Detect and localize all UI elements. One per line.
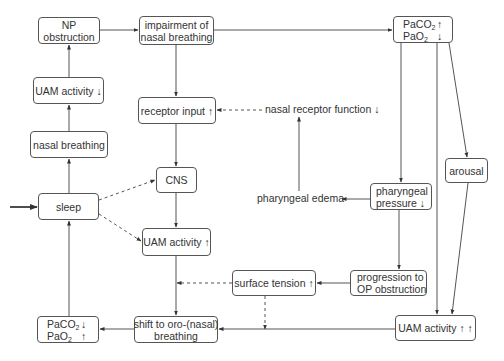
edge-sleep-uam-up (99, 214, 141, 241)
arrow-up-icon: ↑ (81, 330, 86, 342)
node-impairment-nasal-breathing: impairment of nasal breathing (139, 16, 214, 45)
gas-subscript: 2 (68, 336, 72, 343)
node-label: surface tension ↑ (234, 277, 313, 289)
gas-row-paco2: PaCO2 ↓ (47, 318, 86, 330)
node-label: shift to oro-(nasal) (134, 318, 219, 330)
node-label: OP obstruction (357, 283, 426, 295)
gas-label: PaCO (403, 18, 432, 30)
edge-gas-arousal (449, 43, 467, 157)
node-np-obstruction: NP obstruction (38, 17, 100, 44)
gas-label: PaO (403, 30, 424, 42)
node-surface-tension: surface tension ↑ (232, 270, 316, 296)
node-receptor-input: receptor input ↑ (138, 97, 216, 124)
node-label: obstruction (43, 31, 94, 43)
node-arousal: arousal (445, 158, 488, 183)
node-label: receptor input ↑ (141, 105, 213, 117)
node-label: UAM activity ↓ (35, 85, 102, 97)
node-label: NP (62, 19, 77, 31)
gas-label: PaO (47, 330, 68, 342)
node-pharyngeal-pressure: pharyngeal pressure ↓ (370, 183, 432, 210)
node-shift-oronasal-breathing: shift to oro-(nasal) breathing (134, 316, 218, 343)
node-uam-activity-down: UAM activity ↓ (33, 77, 104, 104)
gas-row-pao2: PaO2 ↑ (47, 330, 86, 342)
node-label: impairment of (145, 19, 209, 31)
node-label: UAM activity ↑ ↑ (398, 322, 473, 334)
edge-arousal-uam-upup (452, 183, 468, 314)
edge-sleep-cns (99, 180, 155, 200)
arrow-down-icon: ↓ (81, 318, 86, 330)
node-label: UAM activity ↑ (143, 236, 210, 248)
node-label: sleep (56, 201, 81, 213)
node-blood-gas-top: PaCO2 ↑ PaO2 ↓ (393, 16, 453, 43)
edges-layer (0, 0, 504, 361)
node-label: nasal breathing (141, 31, 213, 43)
gas-row-paco2: PaCO2 ↑ (403, 18, 442, 30)
gas-label: PaCO (47, 318, 76, 330)
node-nasal-breathing: nasal breathing (30, 131, 108, 158)
gas-subscript: 2 (424, 36, 428, 43)
node-blood-gas-bottom: PaCO2 ↓ PaO2 ↑ (37, 316, 99, 343)
node-label: pharyngeal (376, 185, 428, 197)
node-uam-activity-up: UAM activity ↑ (142, 228, 211, 256)
node-label: pressure ↓ (376, 197, 425, 209)
node-cns: CNS (156, 167, 197, 193)
node-label: arousal (449, 165, 483, 177)
label-nasal-receptor-function: nasal receptor function ↓ (265, 103, 379, 115)
node-label: breathing (154, 330, 198, 342)
label-pharyngeal-edema: pharyngeal edema (257, 192, 344, 204)
gas-row-pao2: PaO2 ↓ (403, 30, 442, 42)
node-label: CNS (165, 174, 187, 186)
node-sleep: sleep (38, 193, 99, 220)
node-uam-activity-upup: UAM activity ↑ ↑ (395, 315, 476, 341)
node-progression-op-obstruction: progression to OP obstruction (350, 270, 427, 296)
node-label: progression to (357, 271, 424, 283)
arrow-down-icon: ↓ (437, 30, 442, 42)
node-label: nasal breathing (33, 139, 105, 151)
arrow-up-icon: ↑ (437, 18, 442, 30)
